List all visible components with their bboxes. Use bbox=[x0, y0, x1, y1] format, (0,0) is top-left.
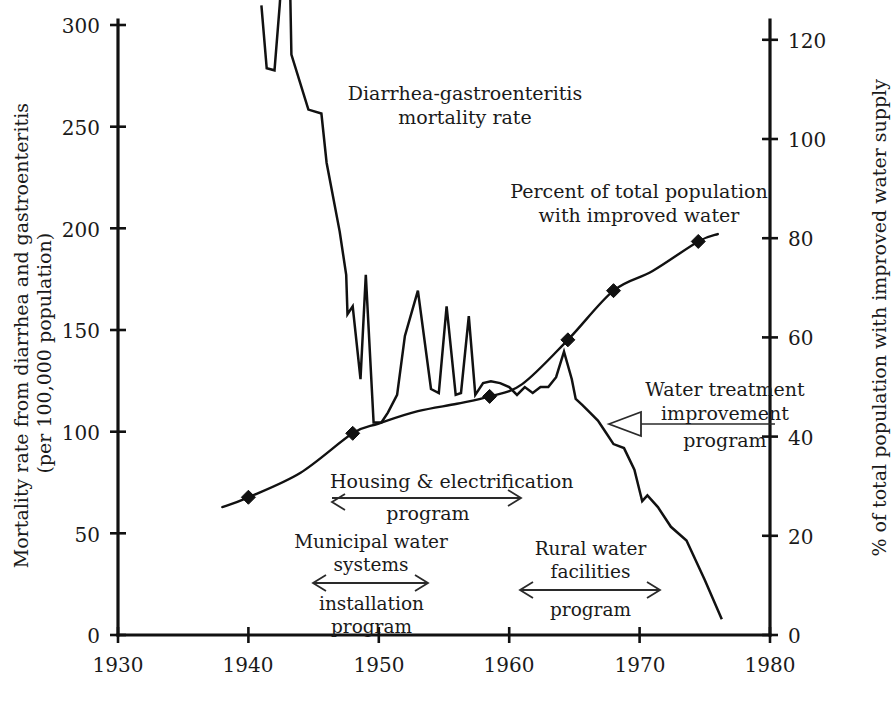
municipal-water-arrow bbox=[313, 575, 428, 591]
rural-water-line1: Rural water bbox=[518, 537, 663, 560]
percent-improved-water-line bbox=[222, 234, 718, 507]
mortality-series-label: Diarrhea-gastroenteritis mortality rate bbox=[330, 82, 600, 130]
y-left-tick-50: 50 bbox=[52, 525, 100, 545]
municipal-water-label-bottom: installation program bbox=[294, 592, 449, 638]
y-right-tick-0: 0 bbox=[788, 626, 801, 646]
x-tick-1950: 1950 bbox=[339, 655, 419, 675]
percent-marker bbox=[241, 490, 255, 504]
y-right-tick-120: 120 bbox=[788, 31, 826, 51]
mortality-series-label-line1: Diarrhea-gastroenteritis bbox=[330, 82, 600, 106]
y-axis-left-title: Mortality rate from diarrhea and gastroe… bbox=[10, 138, 56, 568]
housing-program-line1: Housing & electrification bbox=[330, 470, 530, 494]
rural-water-arrow bbox=[520, 582, 660, 598]
municipal-water-line2: systems bbox=[285, 553, 457, 576]
y-axis-left-title-line1: Mortality rate from diarrhea and gastroe… bbox=[10, 138, 33, 568]
percent-series-label-line1: Percent of total population bbox=[508, 180, 770, 204]
percent-series-label-line2: with improved water bbox=[508, 204, 770, 228]
water-treatment-line3: program bbox=[640, 429, 810, 453]
y-right-tick-100: 100 bbox=[788, 130, 826, 150]
rural-water-label-bottom: program bbox=[518, 598, 663, 621]
y-left-tick-150: 150 bbox=[52, 321, 100, 341]
y-right-tick-80: 80 bbox=[788, 229, 813, 249]
water-treatment-program-label: Water treatment improvement program bbox=[640, 378, 810, 452]
x-tick-1940: 1940 bbox=[208, 655, 288, 675]
x-tick-1980: 1980 bbox=[730, 655, 810, 675]
y-left-tick-100: 100 bbox=[52, 423, 100, 443]
percent-marker bbox=[691, 234, 705, 248]
y-right-tick-20: 20 bbox=[788, 527, 813, 547]
y-right-tick-60: 60 bbox=[788, 328, 813, 348]
municipal-water-line1: Municipal water bbox=[285, 530, 457, 553]
y-left-tick-300: 300 bbox=[52, 16, 100, 36]
y-left-tick-0: 0 bbox=[52, 626, 100, 646]
x-tick-1970: 1970 bbox=[600, 655, 680, 675]
water-treatment-line2: improvement bbox=[640, 402, 810, 426]
y-axis-left-title-line2: (per 100,000 population) bbox=[33, 138, 56, 568]
percent-marker bbox=[346, 426, 360, 440]
x-tick-1960: 1960 bbox=[469, 655, 549, 675]
percent-series-label: Percent of total population with improve… bbox=[508, 180, 770, 228]
municipal-water-label-top: Municipal water systems bbox=[285, 530, 457, 576]
municipal-water-line3: installation bbox=[294, 592, 449, 615]
housing-program-label-top: Housing & electrification bbox=[330, 470, 530, 494]
rural-water-line3: program bbox=[518, 598, 663, 621]
rural-water-label-top: Rural water facilities bbox=[518, 537, 663, 583]
x-tick-1930: 1930 bbox=[78, 655, 158, 675]
rural-water-line2: facilities bbox=[518, 560, 663, 583]
y-left-tick-250: 250 bbox=[52, 118, 100, 138]
municipal-water-line4: program bbox=[294, 615, 449, 638]
percent-marker bbox=[483, 389, 497, 403]
y-left-tick-200: 200 bbox=[52, 220, 100, 240]
mortality-series-label-line2: mortality rate bbox=[330, 106, 600, 130]
housing-program-label-bottom: program bbox=[353, 502, 503, 526]
water-treatment-line1: Water treatment bbox=[640, 378, 810, 402]
housing-program-line2: program bbox=[353, 502, 503, 526]
y-axis-right-title: % of total population with improved wate… bbox=[868, 127, 891, 557]
